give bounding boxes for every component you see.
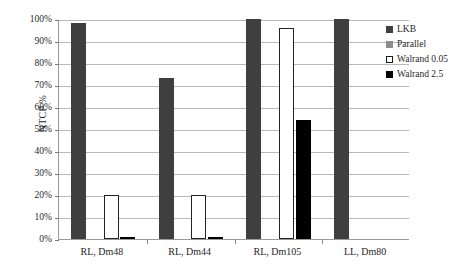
bar	[279, 28, 294, 239]
gridline	[59, 152, 409, 153]
y-axis-tick-label: 100%	[0, 14, 52, 24]
y-axis-tick-mark	[55, 218, 59, 219]
bar	[159, 78, 174, 239]
gridline	[59, 86, 409, 87]
legend-swatch-icon	[386, 41, 393, 48]
plot-area	[58, 20, 409, 240]
legend-label: Walrand 0.05	[397, 52, 448, 67]
y-axis-tick-mark	[55, 196, 59, 197]
bar	[296, 120, 311, 239]
x-axis-category-label: RL, Dm44	[146, 246, 234, 257]
gridline	[59, 108, 409, 109]
bar	[191, 195, 206, 239]
y-axis-tick-label: 30%	[0, 168, 52, 178]
x-axis-category-label: RL, Dm105	[234, 246, 322, 257]
chart-legend: LKBParallelWalrand 0.05Walrand 2.5	[386, 22, 448, 82]
legend-item: Walrand 0.05	[386, 52, 448, 67]
y-axis-tick-label: 80%	[0, 58, 52, 68]
x-axis-separator	[322, 239, 323, 244]
y-axis-tick-mark	[55, 152, 59, 153]
x-axis-category-label: LL, Dm80	[321, 246, 409, 257]
y-axis-tick-label: 60%	[0, 102, 52, 112]
bar	[334, 19, 349, 239]
y-axis-tick-mark	[55, 174, 59, 175]
x-axis-category-label: RL, Dm48	[58, 246, 146, 257]
gridline	[59, 20, 409, 21]
y-axis-tick-mark	[55, 86, 59, 87]
bar	[71, 23, 86, 239]
legend-item: Parallel	[386, 37, 448, 52]
legend-swatch-icon	[386, 71, 393, 78]
x-axis-separator	[147, 239, 148, 244]
legend-label: Parallel	[397, 37, 426, 52]
bar	[246, 19, 261, 239]
y-axis-tick-label: 0%	[0, 234, 52, 244]
gridline	[59, 42, 409, 43]
y-axis-tick-mark	[55, 240, 59, 241]
y-axis-tick-mark	[55, 42, 59, 43]
y-axis-tick-label: 90%	[0, 36, 52, 46]
y-axis-tick-label: 10%	[0, 212, 52, 222]
y-axis-tick-label: 70%	[0, 80, 52, 90]
y-axis-tick-mark	[55, 108, 59, 109]
legend-swatch-icon	[386, 26, 393, 33]
x-axis-separator	[235, 239, 236, 244]
legend-label: Walrand 2.5	[397, 67, 443, 82]
y-axis-tick-mark	[55, 20, 59, 21]
bar	[120, 237, 135, 239]
legend-label: LKB	[397, 22, 416, 37]
bar	[208, 237, 223, 239]
y-axis-tick-label: 20%	[0, 190, 52, 200]
legend-item: Walrand 2.5	[386, 67, 448, 82]
bar	[104, 195, 119, 239]
legend-swatch-icon	[386, 56, 393, 63]
legend-item: LKB	[386, 22, 448, 37]
gridline	[59, 130, 409, 131]
y-axis-tick-mark	[55, 130, 59, 131]
ntcp-bar-chart: NTCP % 100%90%80%70%60%50%40%30%20%10%0%…	[0, 0, 460, 275]
y-axis-tick-label: 50%	[0, 124, 52, 134]
gridline	[59, 64, 409, 65]
y-axis-tick-mark	[55, 64, 59, 65]
y-axis-tick-label: 40%	[0, 146, 52, 156]
gridline	[59, 174, 409, 175]
